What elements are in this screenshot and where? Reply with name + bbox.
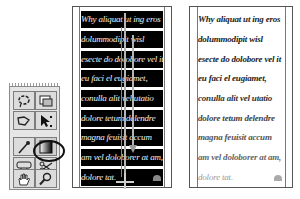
right-margin-guide <box>285 7 286 187</box>
page-after[interactable]: Why aliquat ut ing eros dolummodipit wis… <box>189 6 293 188</box>
lasso-tool-button[interactable] <box>13 91 35 110</box>
hand-tool-button[interactable] <box>13 169 35 188</box>
gradient-drag-line <box>121 27 122 177</box>
text-line: eu faci el eugiamet, <box>198 70 284 87</box>
magnifier-icon <box>38 172 54 186</box>
polygon-lasso-icon <box>16 114 32 128</box>
drag-arrow-icon <box>129 145 137 153</box>
text-line: conulla alit vel utatio <box>81 90 163 107</box>
polygon-lasso-tool-button[interactable] <box>13 111 35 130</box>
right-margin-guide <box>164 7 165 187</box>
frame-icon <box>38 94 54 108</box>
text-line: magna feuisit accum <box>81 129 163 146</box>
overset-mark-icon <box>274 175 282 181</box>
text-line: dolore tat. <box>198 169 284 186</box>
text-line: esecte do dolobore vel it <box>81 51 163 68</box>
text-line: magna feuisit accum <box>198 129 284 146</box>
selected-tool-highlight <box>33 140 65 162</box>
text-line: dolore tetum delendre <box>198 110 284 127</box>
lasso-icon <box>16 94 32 108</box>
page-before[interactable]: Why aliquat ut ing eros dolummodipit wis… <box>72 6 172 188</box>
crosshair-cursor <box>124 173 126 189</box>
text-line: am vel doloborer at am, <box>81 149 163 166</box>
overset-mark-icon <box>153 175 161 181</box>
text-line: esecte do dolobore vel it <box>198 51 284 68</box>
text-line: eu faci el eugiamet, <box>81 70 163 87</box>
text-line: Why aliquat ut ing eros <box>81 11 163 28</box>
text-line: dolummodipit wisl <box>81 31 163 48</box>
hand-icon <box>16 172 32 186</box>
text-line: conulla alit vel utatio <box>198 90 284 107</box>
text-line: dolummodipit wisl <box>198 31 284 48</box>
gradient-drag-line <box>124 13 126 185</box>
text-line: dolore tat. <box>81 169 163 186</box>
text-line: dolore tetum delendre <box>81 110 163 127</box>
direct-select-tool-button[interactable] <box>35 111 57 130</box>
text-line: am vel doloborer at am, <box>198 149 284 166</box>
frame-tool-button[interactable] <box>35 91 57 110</box>
eyedropper-icon <box>16 140 32 154</box>
direct-select-icon <box>38 114 54 128</box>
text-line: Why aliquat ut ing eros <box>198 11 284 28</box>
gradient-drag-line <box>132 35 134 150</box>
zoom-tool-button[interactable] <box>35 169 57 188</box>
eyedropper-tool-button[interactable] <box>13 137 35 156</box>
left-margin-guide <box>79 7 80 187</box>
tool-palette <box>9 86 60 190</box>
